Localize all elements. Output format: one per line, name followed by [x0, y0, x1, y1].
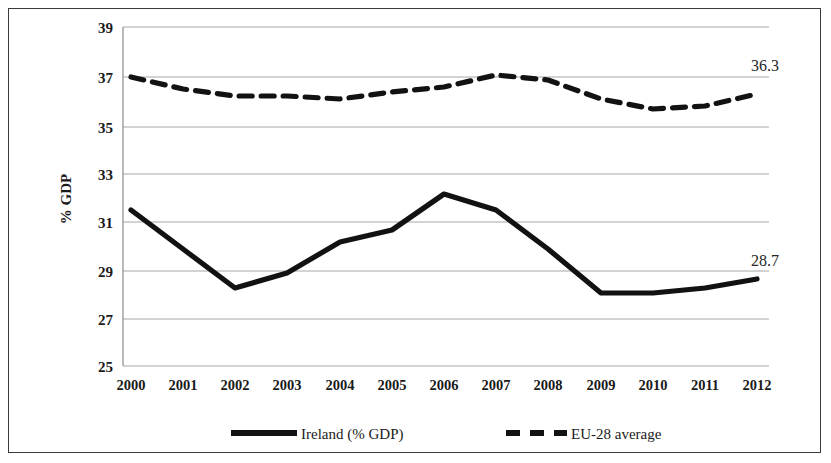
annotation-ireland-endpoint: 28.7	[751, 252, 779, 269]
chart-plot-container: 39 37 35 33 31 29 27 25 % GDP 36.3 28.7 …	[9, 9, 822, 454]
x-tick-label-2009: 2009	[587, 377, 616, 393]
legend-label-ireland: Ireland (% GDP)	[301, 426, 403, 443]
x-tick-label-2003: 2003	[273, 377, 302, 393]
annotation-eu-28-endpoint: 36.3	[751, 57, 779, 74]
y-tick-label-39: 39	[98, 20, 113, 36]
x-tick-label-2008: 2008	[534, 377, 563, 393]
y-tick-label-33: 33	[98, 167, 113, 183]
y-axis-title: % GDP	[58, 174, 74, 224]
y-tick-label-27: 27	[98, 312, 114, 328]
x-tick-label-2007: 2007	[482, 377, 511, 393]
series-line-ireland	[131, 194, 757, 293]
legend-label-eu-28: EU-28 average	[571, 426, 662, 442]
x-tick-label-2000: 2000	[117, 377, 146, 393]
x-tick-label-2011: 2011	[691, 377, 719, 393]
chart-figure-frame: 39 37 35 33 31 29 27 25 % GDP 36.3 28.7 …	[8, 8, 821, 453]
x-tick-label-2001: 2001	[169, 377, 198, 393]
x-axis-tick-labels: 2000 2001 2002 2003 2004 2005 2006 2007 …	[117, 377, 772, 393]
x-tick-label-2010: 2010	[639, 377, 668, 393]
y-tick-label-35: 35	[98, 120, 113, 136]
x-tick-label-2006: 2006	[430, 377, 459, 393]
x-tick-label-2005: 2005	[378, 377, 407, 393]
y-axis-tick-labels: 39 37 35 33 31 29 27 25	[98, 20, 114, 375]
y-tick-label-31: 31	[98, 215, 113, 231]
x-tick-label-2012: 2012	[743, 377, 772, 393]
chart-legend: Ireland (% GDP) EU-28 average	[231, 426, 662, 443]
x-tick-label-2004: 2004	[326, 377, 355, 393]
line-chart-svg: 39 37 35 33 31 29 27 25 % GDP 36.3 28.7 …	[9, 9, 822, 454]
x-tick-label-2002: 2002	[221, 377, 250, 393]
y-tick-label-37: 37	[98, 70, 114, 86]
series-line-eu-28	[131, 75, 757, 109]
y-tick-label-25: 25	[98, 359, 113, 375]
y-tick-label-29: 29	[98, 264, 113, 280]
